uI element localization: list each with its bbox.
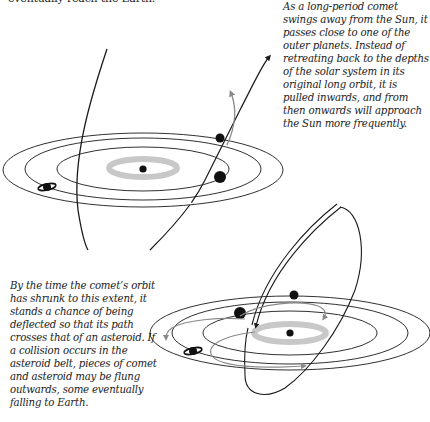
deflected-comet-path	[227, 93, 235, 145]
fragment-path-left	[166, 318, 245, 338]
diagram-bottom	[150, 204, 430, 394]
solar-system-diagrams	[0, 0, 430, 422]
diagram-top	[3, 49, 283, 250]
planet-icon	[290, 291, 299, 300]
outer-planet-icon	[216, 134, 225, 143]
comet-path	[150, 57, 269, 250]
saturn-icon	[38, 182, 57, 192]
sun-icon	[139, 165, 146, 172]
fragment-path-right	[240, 303, 325, 318]
comet-inbound-path-b	[256, 207, 341, 326]
sun-icon	[286, 329, 293, 336]
jupiter-icon	[214, 171, 226, 183]
